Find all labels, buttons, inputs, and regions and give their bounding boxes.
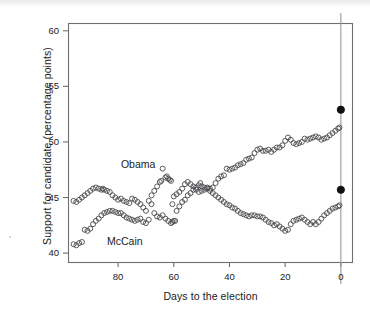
series-label-obama: Obama [121,158,155,170]
data-point [170,202,175,207]
y-tick-label: 60 [37,25,59,36]
data-point [283,138,288,143]
data-point [319,216,324,221]
data-point [160,166,165,171]
data-point [141,205,146,210]
data-point [146,217,151,222]
x-tick-label: 80 [106,271,130,282]
scatter-plot-canvas [0,0,370,317]
data-point [143,208,148,213]
final-result-dot-obama [337,106,344,113]
final-result-dot-mccain [337,186,344,193]
x-tick-label: 60 [162,271,186,282]
y-tick-label: 55 [37,80,59,91]
y-tick-label: 50 [37,136,59,147]
y-tick-label: 45 [37,192,59,203]
series-label-mccain: McCain [107,235,143,247]
x-tick-label: 40 [217,271,241,282]
scan-speck [9,236,11,238]
scan-artifact-band [0,0,370,7]
data-point [146,198,151,203]
chart-figure: Support for candidate (percentage points… [0,0,370,317]
data-point [288,222,293,227]
x-tick-label: 0 [329,271,353,282]
data-point [152,211,157,216]
y-tick-label: 40 [37,247,59,258]
data-point [252,151,257,156]
data-point [91,222,96,227]
series-obama [71,125,342,213]
data-point [149,202,154,207]
x-axis-title: Days to the election [68,290,353,302]
x-tick-label: 20 [273,271,297,282]
